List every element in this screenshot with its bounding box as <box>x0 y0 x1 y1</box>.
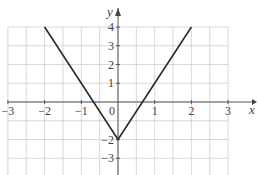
x-tick-label: 2 <box>188 104 194 118</box>
origin-label: 0 <box>109 104 115 118</box>
x-tick-label: −2 <box>38 104 51 118</box>
y-axis-arrow-icon <box>115 8 121 16</box>
x-axis-label: x <box>248 102 255 117</box>
y-tick-label: 4 <box>108 20 114 34</box>
y-tick-label: 3 <box>108 39 114 53</box>
y-axis-label: y <box>105 4 113 19</box>
x-tick-label: 1 <box>152 104 158 118</box>
y-tick-label: 1 <box>108 76 114 90</box>
y-tick-label: −3 <box>101 151 114 165</box>
chart: x y 0 −3−2−11234321−2−3 <box>0 0 258 175</box>
tick-labels: −3−2−11234321−2−3 <box>2 20 232 165</box>
y-tick-label: −2 <box>101 133 114 147</box>
x-tick-label: −3 <box>2 104 15 118</box>
x-tick-label: −1 <box>75 104 88 118</box>
axes: x y 0 <box>8 4 257 175</box>
y-tick-label: 2 <box>108 58 114 72</box>
x-tick-label: 3 <box>225 104 231 118</box>
